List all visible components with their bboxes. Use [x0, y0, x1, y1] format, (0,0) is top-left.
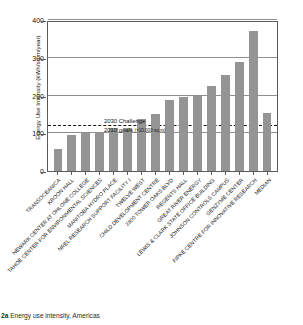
x-tick-mark: [197, 172, 198, 175]
caption-number: 2a: [1, 312, 8, 319]
y-axis-title: Energy Use Intensity (kWh/sq m/year): [34, 8, 41, 168]
bar-slot: [135, 22, 149, 171]
x-tick-mark: [253, 172, 254, 175]
annotation-line-2: 2010 goals (>10,000 sq.m): [104, 126, 166, 135]
x-tick-mark: [239, 172, 240, 175]
bar-slot: [107, 22, 121, 171]
x-tick-mark: [57, 172, 58, 175]
annotation-line-2-sub: (>10,000 sq.m): [134, 128, 165, 133]
y-tick-mark-300: [41, 59, 46, 60]
bar: [54, 149, 63, 171]
bar-slot: [246, 22, 260, 171]
annotation-line-2-main: 2010 goals: [104, 127, 133, 133]
bar-slot: [190, 22, 204, 171]
y-tick-label-200: 200: [4, 93, 44, 100]
bar-slot: [218, 22, 232, 171]
threshold-annotation: 2030 Challenge 2010 goals (>10,000 sq.m): [104, 117, 166, 135]
bar: [165, 100, 174, 171]
x-tick-mark: [141, 172, 142, 175]
bar: [263, 113, 272, 171]
figure-caption: 2a Energy use intensity, Americas: [1, 312, 301, 319]
x-axis-labels: TRANSOCEANICAKROON HALLNEWARK CENTER AT …: [47, 176, 278, 296]
y-tick-mark-200: [41, 97, 46, 98]
x-tick-mark: [155, 172, 156, 175]
bar-slot: [51, 22, 65, 171]
bar-slot: [260, 22, 274, 171]
bar: [207, 86, 216, 171]
bar-slot: [79, 22, 93, 171]
plot-area: 2030 Challenge 2010 goals (>10,000 sq.m): [47, 21, 278, 172]
bar-slot: [65, 22, 79, 171]
x-tick-mark: [225, 172, 226, 175]
gridline-400: [48, 19, 277, 20]
bar-series: [48, 22, 277, 171]
bar-slot: [176, 22, 190, 171]
bar-slot: [204, 22, 218, 171]
x-tick-mark: [113, 172, 114, 175]
x-tick-mark: [71, 172, 72, 175]
bar-slot: [163, 22, 177, 171]
x-tick-mark: [99, 172, 100, 175]
x-tick-mark: [183, 172, 184, 175]
x-tick-mark: [211, 172, 212, 175]
y-tick-label-400: 400: [4, 17, 44, 24]
bar: [179, 97, 188, 171]
x-tick-mark: [127, 172, 128, 175]
figure-energy-use-intensity: Energy Use Intensity (kWh/sq m/year) 010…: [0, 0, 303, 325]
x-tick-mark: [267, 172, 268, 175]
bar-slot: [121, 22, 135, 171]
x-tick-mark: [85, 172, 86, 175]
y-tick-label-0: 0: [4, 168, 44, 175]
bar: [67, 135, 76, 171]
bar: [95, 132, 104, 171]
y-tick-label-100: 100: [4, 130, 44, 137]
bar: [249, 31, 258, 171]
bar: [81, 133, 90, 171]
y-tick-mark-100: [41, 134, 46, 135]
y-tick-mark-400: [41, 21, 46, 22]
y-tick-label-300: 300: [4, 55, 44, 62]
bar-slot: [93, 22, 107, 171]
bar: [193, 96, 202, 172]
caption-text: Energy use intensity, Americas: [10, 312, 100, 319]
bar-slot: [149, 22, 163, 171]
bar: [221, 75, 230, 171]
bar-slot: [232, 22, 246, 171]
x-tick-mark: [169, 172, 170, 175]
y-tick-mark-0: [41, 172, 46, 173]
bar: [235, 62, 244, 171]
annotation-line-1: 2030 Challenge: [104, 117, 166, 126]
